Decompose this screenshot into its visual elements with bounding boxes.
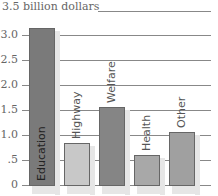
y-tick-label: 2.0 [0,79,18,90]
y-tick-label: 1.0 [0,129,18,140]
bar-base-shadow [137,186,165,194]
y-tick-label: 1.5 [0,104,18,115]
bar-base-shadow [67,186,95,194]
bar-base-shadow [102,186,130,194]
y-tick-label: 3.0 [0,29,18,40]
y-tick-label: .5 [0,154,18,165]
bar-welfare [99,107,125,186]
top-gridline [98,11,211,12]
category-label: Highway [70,91,83,139]
category-label: Health [140,115,153,151]
bar-highway [64,143,90,186]
y-tick-label: 2.5 [0,54,18,65]
bar-other [169,132,195,186]
bar-base-shadow [32,186,60,194]
category-label: Welfare [105,61,118,103]
bar-shadow [125,110,130,195]
y-tick-label: 0 [0,179,18,190]
bar-health [134,155,160,186]
category-label: Education [35,126,48,181]
bar-base-shadow [172,186,200,194]
chart-title: 3.5 billion dollars [2,0,99,13]
category-label: Other [175,97,188,128]
bar-shadow [55,31,60,196]
